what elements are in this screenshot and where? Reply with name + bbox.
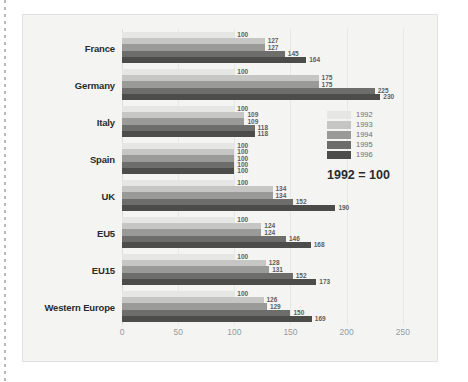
bar-value-label: 168 (314, 242, 325, 249)
bar (122, 168, 234, 174)
legend-swatch (327, 121, 351, 129)
bar-value-label: 118 (258, 131, 269, 138)
bar-stack: 100175175225230 (122, 66, 423, 103)
bar-group: EU15100128131152173 (122, 251, 423, 288)
bar-value-label: 169 (315, 316, 326, 323)
bar-row: 230 (122, 94, 423, 100)
category-label: EU5 (97, 227, 115, 238)
category-label: Italy (97, 116, 115, 127)
legend-note: 1992 = 100 (327, 168, 419, 182)
bar (122, 242, 311, 248)
chart-figure: France100127127145164Germany100175175225… (22, 14, 438, 362)
bar-group: UK100134134152190 (122, 177, 423, 214)
legend-label: 1994 (356, 131, 373, 139)
bar-value-label: 100 (237, 168, 248, 175)
x-tick-label: 50 (173, 327, 182, 337)
legend-item[interactable]: 1992 (327, 111, 419, 119)
bar (122, 131, 255, 137)
bar (122, 94, 380, 100)
legend-label: 1995 (356, 141, 373, 149)
bar-row: 164 (122, 57, 423, 63)
legend-item[interactable]: 1994 (327, 131, 419, 139)
bar-row: 190 (122, 205, 423, 211)
legend-items: 19921993199419951996 (327, 111, 419, 159)
bar (122, 316, 312, 322)
legend-item[interactable]: 1996 (327, 151, 419, 159)
bar-group: Germany100175175225230 (122, 66, 423, 103)
page-margin-rule (4, 0, 6, 382)
category-label: Spain (90, 153, 115, 164)
legend-item[interactable]: 1993 (327, 121, 419, 129)
bar-value-label: 173 (319, 279, 330, 286)
legend-label: 1992 (356, 111, 373, 119)
bar-value-label: 230 (383, 94, 394, 101)
bar-stack: 100126129150169 (122, 288, 423, 325)
x-tick-label: 200 (340, 327, 354, 337)
bar-stack: 100134134152190 (122, 177, 423, 214)
legend-swatch (327, 141, 351, 149)
bar (122, 57, 306, 63)
x-tick-label: 100 (227, 327, 241, 337)
bar-value-label: 164 (309, 57, 320, 64)
chart-legend: 19921993199419951996 1992 = 100 (327, 111, 419, 182)
category-label: Germany (75, 79, 115, 90)
x-tick-label: 150 (283, 327, 297, 337)
legend-label: 1996 (356, 151, 373, 159)
bar-row: 169 (122, 316, 423, 322)
x-axis: 050100150200250 (122, 327, 423, 347)
category-label: France (85, 42, 115, 53)
bar-value-label: 190 (338, 205, 349, 212)
bar-group: France100127127145164 (122, 29, 423, 66)
category-label: Western Europe (44, 301, 115, 312)
bar (122, 205, 335, 211)
bar-stack: 100124124146168 (122, 214, 423, 251)
legend-swatch (327, 131, 351, 139)
x-tick-label: 0 (120, 327, 125, 337)
x-tick-label: 250 (396, 327, 410, 337)
bar-group: Western Europe100126129150169 (122, 288, 423, 325)
bar-group: EU5100124124146168 (122, 214, 423, 251)
category-label: UK (102, 190, 115, 201)
legend-swatch (327, 151, 351, 159)
category-label: EU15 (92, 264, 115, 275)
bar-row: 173 (122, 279, 423, 285)
bar (122, 279, 316, 285)
legend-item[interactable]: 1995 (327, 141, 419, 149)
legend-label: 1993 (356, 121, 373, 129)
bar-row: 168 (122, 242, 423, 248)
bar-stack: 100127127145164 (122, 29, 423, 66)
bar-stack: 100128131152173 (122, 251, 423, 288)
legend-swatch (327, 111, 351, 119)
